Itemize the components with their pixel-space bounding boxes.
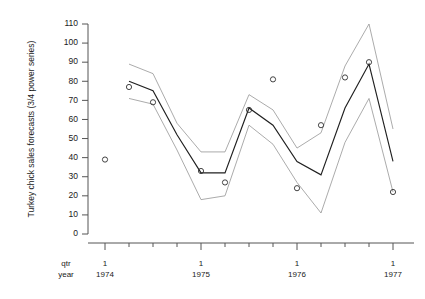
- y-axis-tick-label: 90: [69, 56, 79, 66]
- observed-data-point: [318, 123, 323, 128]
- axis-row-label-qtr: qtr: [61, 259, 71, 268]
- y-axis-tick-label: 0: [73, 228, 78, 238]
- y-axis-tick-label: 100: [64, 37, 78, 47]
- x-axis-year-label: 1977: [384, 270, 402, 279]
- x-axis-qtr-label: 1: [391, 259, 396, 268]
- x-axis: 11974119751197611977: [88, 243, 414, 279]
- y-axis-tick-label: 20: [69, 190, 79, 200]
- x-axis-year-label: 1974: [96, 270, 114, 279]
- y-axis-ticks: [82, 24, 88, 234]
- forecast-lower-bound-line: [129, 98, 393, 213]
- y-axis-tick-label: 30: [69, 171, 79, 181]
- y-axis: 0102030405060708090100110: [64, 18, 88, 238]
- x-axis-qtr-label: 1: [103, 259, 108, 268]
- y-axis-tick-labels: 0102030405060708090100110: [64, 18, 78, 238]
- y-axis-tick-label: 80: [69, 76, 79, 86]
- x-axis-year-label: 1976: [288, 270, 306, 279]
- observed-markers-layer: [102, 60, 395, 195]
- x-axis-group-labels: 11974119751197611977: [96, 259, 402, 279]
- y-axis-tick-label: 50: [69, 133, 79, 143]
- y-axis-tick-label: 60: [69, 114, 79, 124]
- x-axis-qtr-label: 1: [295, 259, 300, 268]
- y-axis-tick-label: 10: [69, 209, 79, 219]
- chart-figure: Turkey chick sales forecasts (3/4 power …: [0, 0, 425, 299]
- forecast-center-line: [129, 64, 393, 175]
- observed-data-point: [126, 84, 131, 89]
- x-axis-qtr-label: 1: [199, 259, 204, 268]
- observed-data-point: [222, 180, 227, 185]
- x-axis-year-label: 1975: [192, 270, 210, 279]
- x-axis-ticks: [105, 243, 393, 250]
- y-axis-title: Turkey chick sales forecasts (3/4 power …: [26, 40, 36, 217]
- series-layer: [129, 24, 393, 213]
- observed-data-point: [294, 186, 299, 191]
- y-axis-tick-label: 110: [64, 18, 78, 28]
- y-axis-tick-label: 70: [69, 95, 79, 105]
- axis-row-label-year: year: [58, 270, 74, 279]
- forecast-upper-bound-line: [129, 24, 393, 152]
- observed-data-point: [102, 157, 107, 162]
- observed-data-point: [342, 75, 347, 80]
- turkey-chick-sales-forecast-chart: Turkey chick sales forecasts (3/4 power …: [0, 0, 425, 299]
- observed-data-point: [270, 77, 275, 82]
- y-axis-tick-label: 40: [69, 152, 79, 162]
